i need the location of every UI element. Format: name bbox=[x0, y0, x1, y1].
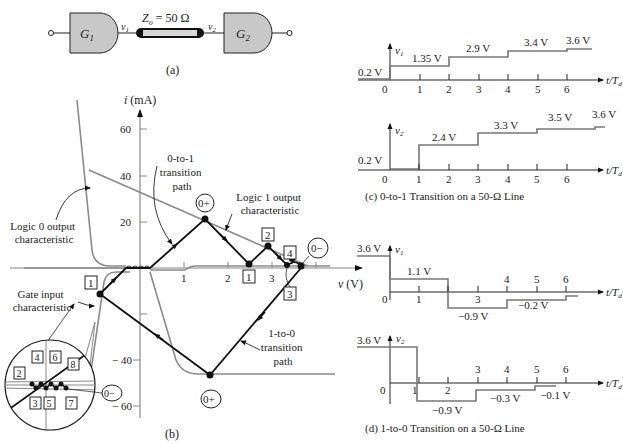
svg-text:3: 3 bbox=[475, 173, 481, 185]
svg-text:2: 2 bbox=[17, 368, 22, 379]
svg-text:1.1 V: 1.1 V bbox=[407, 265, 431, 277]
svg-text:3.3 V: 3.3 V bbox=[494, 119, 518, 131]
svg-text:5: 5 bbox=[534, 363, 540, 375]
svg-text:20: 20 bbox=[120, 216, 132, 228]
figure-canvas: G1 v1 Zo = 50 Ω v2 G2 (a) i (mA) v (V) 6… bbox=[0, 0, 623, 444]
svg-text:0: 0 bbox=[382, 83, 388, 95]
annotation-0-to-1: 0-to-1 transition path bbox=[160, 152, 204, 192]
figure-b-caption: (b) bbox=[165, 427, 179, 441]
point-1-right: 1 bbox=[246, 271, 252, 283]
svg-text:2: 2 bbox=[225, 272, 231, 284]
point-1-left: 1 bbox=[88, 277, 94, 289]
svg-text:60: 60 bbox=[120, 123, 132, 135]
figure-d-v1-plot: v1 t/Td 0 1 3 4 5 6 3.6 V 1.1 V −0.9 V −… bbox=[357, 242, 622, 322]
svg-text:1: 1 bbox=[417, 83, 423, 95]
annotation-1-to-0: 1-to-0 transition path bbox=[261, 327, 305, 367]
svg-text:1: 1 bbox=[416, 293, 422, 305]
svg-text:6: 6 bbox=[53, 352, 58, 363]
voltage-axis-label: v (V) bbox=[338, 277, 363, 291]
svg-text:4: 4 bbox=[35, 352, 40, 363]
current-axis-label: i (mA) bbox=[124, 93, 156, 107]
svg-text:3: 3 bbox=[269, 272, 275, 284]
annotation-gate-input: Gate input characteristic bbox=[13, 288, 72, 313]
svg-text:1: 1 bbox=[416, 173, 422, 185]
time-axis-label: t/Td bbox=[606, 286, 622, 300]
svg-text:6: 6 bbox=[564, 83, 570, 95]
input-terminal-icon bbox=[49, 31, 54, 36]
svg-text:2.4 V: 2.4 V bbox=[432, 131, 456, 143]
figure-c-v1-plot: v1 t/Td 0 1 2 3 4 5 6 0.2 V 1.35 V 2.9 V… bbox=[358, 34, 622, 95]
svg-text:5: 5 bbox=[534, 273, 540, 285]
time-axis-label: t/Td bbox=[606, 164, 622, 178]
svg-text:2: 2 bbox=[445, 384, 451, 396]
figure-c-caption: (c) 0-to-1 Transition on a 50-Ω Line bbox=[365, 190, 524, 203]
v2-waveform bbox=[390, 127, 605, 169]
svg-text:0: 0 bbox=[382, 293, 388, 305]
figure-d-v2-plot: v2 t/Td 0 1 2 3 4 5 6 3.6 V −0.9 V −0.3 … bbox=[357, 332, 622, 435]
point-2: 2 bbox=[265, 229, 271, 241]
point-4: 4 bbox=[287, 247, 293, 259]
svg-text:− 40: − 40 bbox=[112, 354, 132, 366]
point-0plus-top: 0+ bbox=[198, 197, 210, 209]
svg-text:6: 6 bbox=[564, 173, 570, 185]
point-0plus-bottom: 0+ bbox=[203, 393, 215, 405]
svg-text:3.4 V: 3.4 V bbox=[524, 36, 548, 48]
svg-text:3: 3 bbox=[476, 83, 482, 95]
figure-b-plot: i (mA) v (V) 60 40 20 − 40 − 60 1 2 3 bbox=[0, 93, 363, 441]
v1-axis-label: v1 bbox=[395, 44, 403, 58]
svg-text:2: 2 bbox=[446, 173, 452, 185]
svg-text:−0.1 V: −0.1 V bbox=[540, 389, 571, 401]
point-3: 3 bbox=[287, 288, 293, 300]
svg-text:4: 4 bbox=[505, 83, 511, 95]
svg-text:2: 2 bbox=[446, 83, 452, 95]
time-axis-label: t/Td bbox=[606, 377, 622, 391]
svg-text:8: 8 bbox=[71, 359, 76, 370]
svg-text:0.2 V: 0.2 V bbox=[358, 154, 382, 166]
point-0minus: 0− bbox=[311, 242, 323, 254]
annotation-logic1-output: Logic 1 output characteristic bbox=[236, 191, 304, 216]
svg-text:1: 1 bbox=[181, 272, 187, 284]
svg-text:4: 4 bbox=[505, 173, 511, 185]
svg-text:6: 6 bbox=[563, 273, 569, 285]
svg-text:3.6 V: 3.6 V bbox=[592, 108, 616, 120]
svg-text:3.6 V: 3.6 V bbox=[357, 242, 381, 254]
svg-text:1.35 V: 1.35 V bbox=[412, 52, 442, 64]
svg-text:4: 4 bbox=[504, 363, 510, 375]
svg-text:1: 1 bbox=[412, 384, 418, 396]
svg-text:− 60: − 60 bbox=[112, 400, 132, 412]
svg-text:4: 4 bbox=[504, 273, 510, 285]
svg-text:5: 5 bbox=[535, 83, 541, 95]
figure-c-v2-plot: v2 t/Td 0 1 2 3 4 5 6 0.2 V 2.4 V 3.3 V … bbox=[358, 108, 622, 203]
svg-text:3: 3 bbox=[33, 398, 38, 409]
svg-text:5: 5 bbox=[47, 398, 52, 409]
v2-axis-label: v2 bbox=[395, 124, 404, 138]
svg-text:3: 3 bbox=[475, 293, 481, 305]
v2-waveform bbox=[357, 347, 556, 401]
svg-text:3: 3 bbox=[475, 363, 481, 375]
inset-point-0minus: 0− bbox=[104, 388, 115, 399]
svg-text:7: 7 bbox=[69, 398, 74, 409]
svg-text:−0.3 V: −0.3 V bbox=[490, 392, 521, 404]
time-axis-label: t/Td bbox=[606, 74, 622, 88]
svg-text:0: 0 bbox=[380, 384, 386, 396]
svg-text:3.6 V: 3.6 V bbox=[357, 334, 381, 346]
figure-a-caption: (a) bbox=[166, 63, 179, 77]
figure-a-circuit: G1 v1 Zo = 50 Ω v2 G2 (a) bbox=[49, 11, 293, 77]
svg-text:40: 40 bbox=[120, 170, 132, 182]
gate-g1-icon bbox=[70, 13, 118, 53]
svg-text:2.9 V: 2.9 V bbox=[466, 42, 490, 54]
v2-axis-label: v2 bbox=[396, 332, 405, 346]
svg-text:3.5 V: 3.5 V bbox=[548, 111, 572, 123]
inset-magnifier: 2 3 4 5 6 7 8 0− bbox=[0, 304, 122, 430]
svg-text:3.6 V: 3.6 V bbox=[566, 34, 590, 46]
figure-d-caption: (d) 1-to-0 Transition on a 50-Ω Line bbox=[365, 422, 525, 435]
svg-text:5: 5 bbox=[534, 173, 540, 185]
line-impedance-label: Zo = 50 Ω bbox=[142, 11, 189, 27]
v2-node-label: v2 bbox=[208, 21, 216, 34]
svg-text:−0.2 V: −0.2 V bbox=[518, 299, 549, 311]
output-terminal-icon bbox=[287, 31, 292, 36]
svg-text:−0.9 V: −0.9 V bbox=[458, 310, 489, 322]
svg-text:0.2 V: 0.2 V bbox=[358, 66, 382, 78]
annotation-logic0-output: Logic 0 output characteristic bbox=[10, 220, 78, 245]
v1-axis-label: v1 bbox=[395, 243, 403, 257]
